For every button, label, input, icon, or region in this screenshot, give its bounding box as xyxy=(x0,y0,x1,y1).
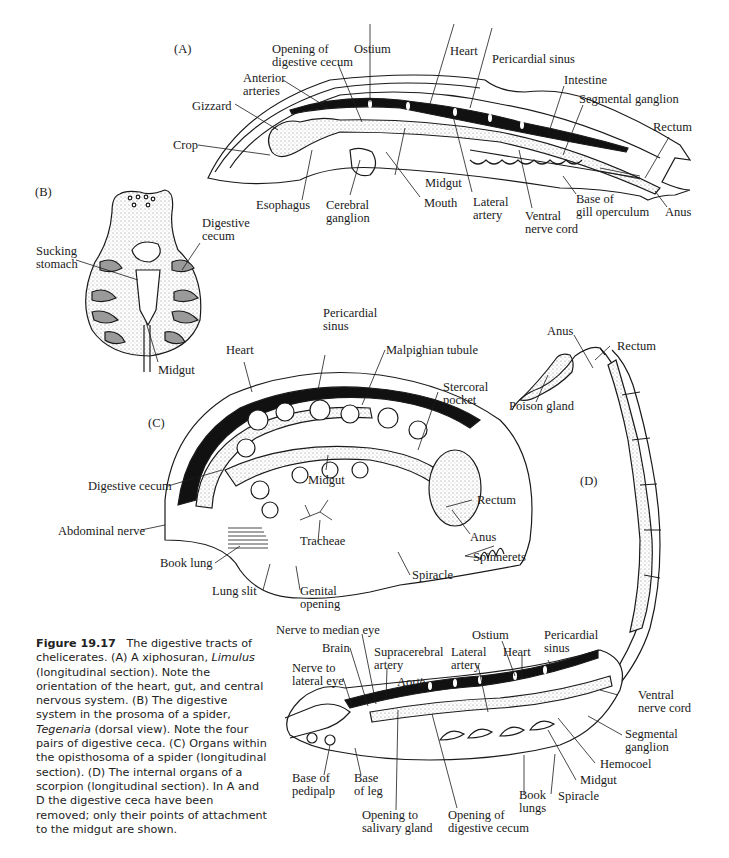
label-genital-opening-line1: Genital xyxy=(300,584,337,598)
label-base-of-leg-line1: Base xyxy=(354,771,378,785)
label-stercoral-pocket-line1: Stercoral xyxy=(443,380,488,394)
label-lateral-artery-line2: artery xyxy=(473,208,502,222)
label-anus-d: Anus xyxy=(547,324,573,338)
label-base-of-pedipalp-line1: Base of xyxy=(292,771,330,785)
label-abdominal-nerve: Abdominal nerve xyxy=(58,524,145,538)
label-ostium-d: Ostium xyxy=(472,628,509,642)
figure-19-17: (A) (B) (C) (D) Opening of digestive cec… xyxy=(0,0,729,858)
figure-number: Figure 19.17 xyxy=(36,637,116,650)
label-segmental-ganglion: Segmental ganglion xyxy=(579,92,679,106)
label-mouth: Mouth xyxy=(424,196,457,210)
label-pericardial-sinus: Pericardial sinus xyxy=(492,52,575,66)
label-aorta: Aorta xyxy=(397,675,425,689)
label-digestive-cecum-b-line2: cecum xyxy=(202,229,235,243)
label-supracerebral-artery-line1: Supracerebral xyxy=(374,645,443,659)
label-crop: Crop xyxy=(173,138,198,152)
label-cerebral-ganglion-line1: Cerebral xyxy=(326,198,369,212)
spider-opisthosoma-drawing xyxy=(165,373,532,599)
caption-text-3: (dorsal view). Note the four pairs of di… xyxy=(36,723,267,836)
label-pericardial-sinus-c-line2: sinus xyxy=(323,319,349,333)
label-ventral-nerve-cord-d-line1: Ventral xyxy=(638,688,674,702)
label-lateral-artery-d-line2: artery xyxy=(451,658,480,672)
caption-genus-limulus: Limulus xyxy=(212,651,255,664)
label-sucking-stomach-line1: Sucking xyxy=(36,244,77,258)
label-opening-of-digestive-cecum-line2: digestive cecum xyxy=(272,55,353,69)
label-pericardial-sinus-d-line2: sinus xyxy=(544,641,570,655)
label-stercoral-pocket-line2: pocket xyxy=(443,393,476,407)
label-heart-c: Heart xyxy=(226,343,254,357)
label-genital-opening-line2: opening xyxy=(300,597,340,611)
label-base-of-gill-operculum-line1: Base of xyxy=(576,192,614,206)
label-segmental-ganglion-d-line2: ganglion xyxy=(625,740,669,754)
label-brain: Brain xyxy=(322,641,350,655)
label-nerve-to-lateral-eye-line1: Nerve to xyxy=(292,661,335,675)
label-nerve-to-median-eye: Nerve to median eye xyxy=(276,623,380,637)
label-midgut-a: Midgut xyxy=(425,176,462,190)
label-intestine: Intestine xyxy=(564,73,607,87)
label-spiracle-c: Spiracle xyxy=(412,568,453,582)
label-ventral-nerve-cord-line1: Ventral xyxy=(525,209,561,223)
label-sucking-stomach-line2: stomach xyxy=(36,257,78,271)
label-rectum-c: Rectum xyxy=(477,493,516,507)
label-digestive-cecum-c: Digestive cecum xyxy=(88,479,172,493)
label-midgut-c: Midgut xyxy=(308,473,345,487)
label-poison-gland: Poison gland xyxy=(509,399,574,413)
label-nerve-to-lateral-eye-line2: lateral eye xyxy=(292,674,344,688)
label-spinnerets: Spinnerets xyxy=(473,550,526,564)
panel-tag-b: (B) xyxy=(35,185,52,200)
label-book-lungs-line2: lungs xyxy=(519,801,546,815)
label-book-lungs-line1: Book xyxy=(519,788,546,802)
label-opening-of-digestive-cecum-d-line1: Opening of xyxy=(448,808,505,822)
tegenaria-prosoma-drawing xyxy=(86,190,201,372)
label-opening-to-salivary-gland-line2: salivary gland xyxy=(362,821,432,835)
label-opening-of-digestive-cecum-d-line2: digestive cecum xyxy=(448,821,529,835)
label-midgut-b: Midgut xyxy=(158,363,195,377)
label-heart: Heart xyxy=(450,44,478,58)
panel-tag-c: (C) xyxy=(148,416,165,431)
panel-tag-a: (A) xyxy=(174,42,191,57)
label-rectum-d: Rectum xyxy=(617,339,656,353)
label-opening-of-digestive-cecum-line1: Opening of xyxy=(272,42,329,56)
label-digestive-cecum-b-line1: Digestive xyxy=(202,216,250,230)
label-base-of-leg-line2: of leg xyxy=(354,784,383,798)
label-heart-d: Heart xyxy=(503,645,531,659)
label-cerebral-ganglion-line2: ganglion xyxy=(326,211,370,225)
label-ostium: Ostium xyxy=(354,42,391,56)
label-spiracle-d: Spiracle xyxy=(558,789,599,803)
label-book-lung: Book lung xyxy=(160,556,212,570)
label-tracheae: Tracheae xyxy=(300,534,345,548)
label-esophagus: Esophagus xyxy=(256,198,310,212)
label-lung-slit: Lung slit xyxy=(212,584,257,598)
label-rectum-a: Rectum xyxy=(653,120,692,134)
label-anus-a: Anus xyxy=(665,205,691,219)
label-lateral-artery-line1: Lateral xyxy=(473,195,508,209)
label-base-of-pedipalp-line2: pedipalp xyxy=(292,784,335,798)
label-anus-c: Anus xyxy=(470,530,496,544)
label-anterior-arteries-line2: arteries xyxy=(243,84,280,98)
label-hemocoel: Hemocoel xyxy=(600,757,651,771)
label-ventral-nerve-cord-d-line2: nerve cord xyxy=(638,701,691,715)
caption-genus-tegenaria: Tegenaria xyxy=(36,723,91,736)
label-ventral-nerve-cord-line2: nerve cord xyxy=(525,222,578,236)
caption-text-2: (longitudinal section). Note the orienta… xyxy=(36,666,263,722)
label-segmental-ganglion-d-line1: Segmental xyxy=(625,727,678,741)
label-lateral-artery-d-line1: Lateral xyxy=(451,645,486,659)
label-supracerebral-artery-line2: artery xyxy=(374,658,403,672)
label-gizzard: Gizzard xyxy=(192,99,232,113)
label-opening-to-salivary-gland-line1: Opening to xyxy=(362,808,418,822)
label-pericardial-sinus-d-line1: Pericardial xyxy=(544,628,598,642)
figure-caption: Figure 19.17 The digestive tracts of che… xyxy=(36,637,268,837)
label-anterior-arteries-line1: Anterior xyxy=(243,71,285,85)
label-pericardial-sinus-c-line1: Pericardial xyxy=(323,306,377,320)
panel-tag-d: (D) xyxy=(580,474,597,489)
label-base-of-gill-operculum-line2: gill operculum xyxy=(576,205,649,219)
label-malpighian-tubule: Malpighian tubule xyxy=(386,343,478,357)
label-midgut-d: Midgut xyxy=(580,773,617,787)
